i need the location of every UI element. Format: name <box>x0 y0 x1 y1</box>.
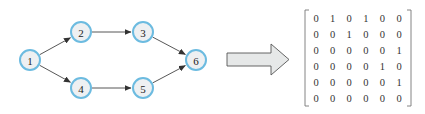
matrix-cell-r4-c6: 0 <box>396 61 401 72</box>
matrix-cell-r4-c2: 0 <box>330 61 335 72</box>
node-label: 4 <box>78 83 84 95</box>
matrix-cell-r6-c4: 0 <box>363 93 368 104</box>
node-label: 3 <box>140 27 146 39</box>
graph-node-2: 2 <box>71 22 91 42</box>
graph-nodes: 123456 <box>20 22 206 98</box>
edge-5-to-6 <box>153 66 186 83</box>
graph-node-1: 1 <box>20 50 40 70</box>
matrix-cell-r1-c1: 0 <box>313 13 318 24</box>
matrix-cell-r6-c3: 0 <box>347 93 352 104</box>
matrix-cell-r5-c3: 0 <box>347 77 352 88</box>
matrix-cell-r3-c5: 0 <box>380 45 385 56</box>
matrix-cell-r1-c5: 0 <box>380 13 385 24</box>
matrix-cell-r5-c5: 0 <box>380 77 385 88</box>
adjacency-matrix: 010100001000000001000010000001000000 <box>305 10 411 106</box>
node-label: 1 <box>27 55 33 67</box>
diagram-canvas: 123456 010100001000000001000010000001000… <box>0 0 425 114</box>
matrix-cell-r6-c2: 0 <box>330 93 335 104</box>
matrix-cell-r6-c5: 0 <box>380 93 385 104</box>
matrix-cell-r4-c5: 1 <box>380 61 385 72</box>
matrix-cell-r4-c3: 0 <box>347 61 352 72</box>
edge-1-to-2 <box>40 38 71 55</box>
matrix-cell-r2-c5: 0 <box>380 29 385 40</box>
matrix-cell-r2-c6: 0 <box>396 29 401 40</box>
transform-arrow-icon <box>227 44 289 75</box>
graph-node-4: 4 <box>71 78 91 98</box>
edge-1-to-4 <box>40 65 71 82</box>
matrix-cell-r4-c1: 0 <box>313 61 318 72</box>
matrix-cell-r3-c3: 0 <box>347 45 352 56</box>
matrix-cell-r2-c3: 1 <box>347 29 352 40</box>
matrix-cells: 010100001000000001000010000001000000 <box>313 13 401 104</box>
matrix-right-bracket <box>407 10 411 106</box>
matrix-cell-r2-c2: 0 <box>330 29 335 40</box>
graph-node-3: 3 <box>133 22 153 42</box>
matrix-cell-r6-c6: 0 <box>396 93 401 104</box>
matrix-cell-r1-c6: 0 <box>396 13 401 24</box>
matrix-cell-r1-c2: 1 <box>330 13 335 24</box>
matrix-cell-r2-c1: 0 <box>313 29 318 40</box>
matrix-cell-r3-c6: 1 <box>396 45 401 56</box>
matrix-cell-r5-c6: 1 <box>396 77 401 88</box>
matrix-cell-r1-c4: 1 <box>363 13 368 24</box>
matrix-cell-r5-c4: 0 <box>363 77 368 88</box>
matrix-cell-r2-c4: 0 <box>363 29 368 40</box>
matrix-cell-r3-c2: 0 <box>330 45 335 56</box>
graph-node-6: 6 <box>186 50 206 70</box>
matrix-cell-r5-c1: 0 <box>313 77 318 88</box>
graph-node-5: 5 <box>133 78 153 98</box>
matrix-cell-r3-c4: 0 <box>363 45 368 56</box>
node-label: 5 <box>140 83 146 95</box>
node-label: 2 <box>78 27 84 39</box>
matrix-cell-r6-c1: 0 <box>313 93 318 104</box>
matrix-cell-r5-c2: 0 <box>330 77 335 88</box>
node-label: 6 <box>193 55 199 67</box>
edge-3-to-6 <box>153 37 186 54</box>
matrix-cell-r1-c3: 0 <box>347 13 352 24</box>
graph-edges <box>40 32 186 88</box>
matrix-left-bracket <box>305 10 309 106</box>
matrix-cell-r3-c1: 0 <box>313 45 318 56</box>
matrix-cell-r4-c4: 0 <box>363 61 368 72</box>
